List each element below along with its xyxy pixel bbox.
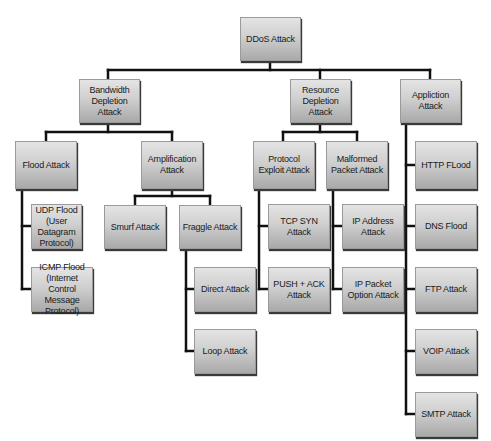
node-label: Resource Depletion Attack <box>293 85 348 118</box>
node-label: Direct Attack <box>201 284 249 295</box>
node-fraggle-attack: Fraggle Attack <box>179 205 241 249</box>
node-label: Fraggle Attack <box>183 222 238 233</box>
node-label: VOIP Attack <box>423 346 469 357</box>
node-label: DNS Flood <box>425 221 467 232</box>
node-label: ICMP Flood (Internet Control Message Pro… <box>34 262 90 317</box>
node-icmp-flood: ICMP Flood (Internet Control Message Pro… <box>31 267 93 312</box>
node-push-ack-attack: PUSH + ACK Attack <box>268 267 330 312</box>
node-label: Loop Attack <box>203 346 248 357</box>
node-label: HTTP FLood <box>421 160 470 171</box>
node-label: Flood Attack <box>22 160 69 171</box>
node-label: DDoS Attack <box>246 34 295 45</box>
node-resource-depletion-attack: Resource Depletion Attack <box>290 79 351 123</box>
node-flood-attack: Flood Attack <box>15 141 77 189</box>
node-malformed-packet-attack: Malformed Packet Attack <box>326 141 388 189</box>
node-direct-attack: Direct Attack <box>194 267 256 312</box>
ddos-taxonomy-diagram: DDoS Attack Bandwidth Depletion Attack R… <box>0 0 491 441</box>
node-label: TCP SYN Attack <box>271 216 327 238</box>
node-label: Protocol Exploit Attack <box>256 154 312 176</box>
node-label: Malformed Packet Attack <box>329 154 385 176</box>
node-application-attack: Appliction Attack <box>400 79 461 123</box>
node-dns-flood: DNS Flood <box>415 204 477 249</box>
node-label: PUSH + ACK Attack <box>271 279 327 301</box>
node-label: IP Packet Option Attack <box>345 279 401 301</box>
node-protocol-exploit-attack: Protocol Exploit Attack <box>253 141 315 189</box>
node-ip-address-attack: IP Address Attack <box>342 204 404 249</box>
node-tcp-syn-attack: TCP SYN Attack <box>268 204 330 249</box>
node-label: Bandwidth Depletion Attack <box>82 85 137 118</box>
node-ftp-attack: FTP Attack <box>415 267 477 312</box>
node-label: UDP Flood (User Datagram Protocol) <box>34 205 79 249</box>
node-voip-attack: VOIP Attack <box>415 329 477 374</box>
node-smtp-attack: SMTP Attack <box>415 392 477 437</box>
node-label: Appliction Attack <box>403 90 458 112</box>
node-ip-packet-option-attack: IP Packet Option Attack <box>342 267 404 312</box>
node-label: Amplification Attack <box>144 154 200 176</box>
node-amplification-attack: Amplification Attack <box>141 141 203 189</box>
node-loop-attack: Loop Attack <box>194 329 256 374</box>
node-http-flood: HTTP FLood <box>415 141 477 189</box>
node-label: IP Address Attack <box>345 216 401 238</box>
node-label: Smurf Attack <box>111 222 160 233</box>
node-smurf-attack: Smurf Attack <box>104 205 166 249</box>
node-udp-flood: UDP Flood (User Datagram Protocol) <box>31 204 82 249</box>
node-label: FTP Attack <box>425 284 467 295</box>
node-bandwidth-depletion-attack: Bandwidth Depletion Attack <box>79 79 140 123</box>
node-label: SMTP Attack <box>421 409 471 420</box>
node-ddos-attack: DDoS Attack <box>240 17 301 61</box>
